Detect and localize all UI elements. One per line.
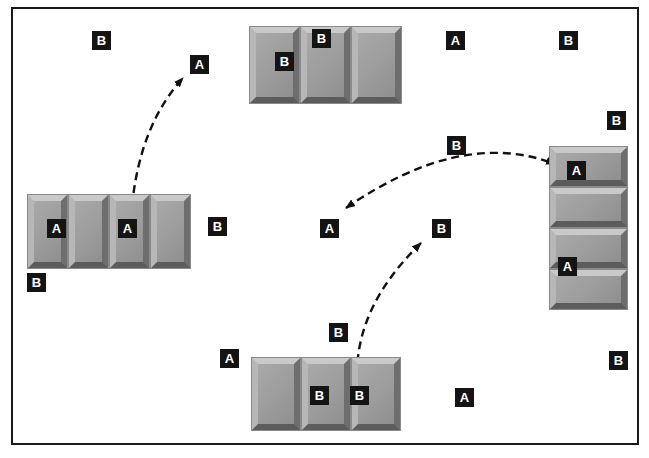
letter-label-b: B <box>310 386 329 405</box>
block-tile <box>352 27 401 103</box>
letter-label-b: B <box>312 29 331 48</box>
letter-label-b: B <box>329 323 348 342</box>
letter-label-b: B <box>275 52 294 71</box>
letter-label-b: B <box>432 219 451 238</box>
letter-label-b: B <box>27 273 46 292</box>
letter-label-b: B <box>447 136 466 155</box>
block-tile <box>550 188 627 227</box>
letter-label-a: A <box>455 388 474 407</box>
letter-label-a: A <box>47 219 66 238</box>
letter-label-a: A <box>190 55 209 74</box>
letter-label-b: B <box>609 351 628 370</box>
letter-label-a: A <box>446 31 465 50</box>
block-tile <box>69 195 108 268</box>
letter-label-b: B <box>92 31 111 50</box>
block-tile <box>550 147 627 186</box>
letter-label-b: B <box>208 217 227 236</box>
block-tile <box>252 358 300 430</box>
diagram-stage: BABBABBBABBAABAABABBAB <box>0 0 649 458</box>
letter-label-a: A <box>220 349 239 368</box>
right-block-group <box>550 147 627 309</box>
letter-label-b: B <box>350 386 369 405</box>
block-tile <box>151 195 190 268</box>
letter-label-a: A <box>118 219 137 238</box>
letter-label-b: B <box>607 111 626 130</box>
letter-label-b: B <box>559 31 578 50</box>
letter-label-a: A <box>558 257 577 276</box>
letter-label-a: A <box>320 219 339 238</box>
letter-label-a: A <box>567 161 586 180</box>
